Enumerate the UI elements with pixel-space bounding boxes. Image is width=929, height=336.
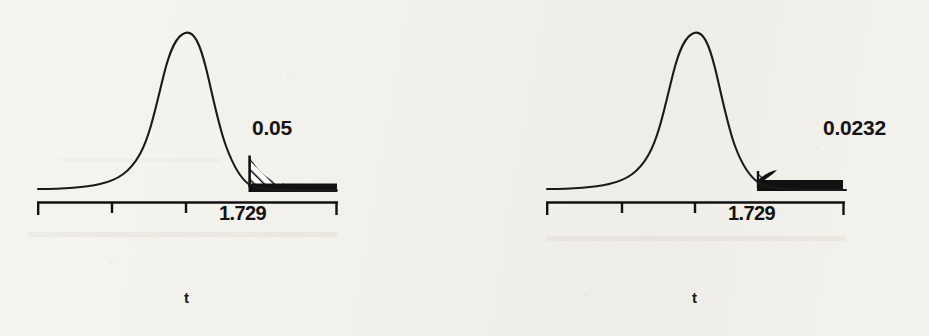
x-axis-ticks-left [38, 202, 336, 215]
figure-canvas: 0.05 1.729 t [0, 0, 929, 336]
left-chart-svg [0, 0, 465, 336]
tail-area-label-right: 0.0232 [823, 117, 886, 138]
density-curve-left [38, 33, 337, 191]
x-axis-ticks-right [547, 202, 843, 215]
x-axis-title-right: t [692, 290, 697, 305]
x-axis-title-left: t [184, 290, 189, 305]
tail-shaded-area-left [250, 156, 337, 188]
critical-value-label-right: 1.729 [728, 203, 775, 223]
critical-value-label-left: 1.729 [219, 203, 266, 223]
chart-panel-left: 0.05 1.729 t [0, 0, 465, 336]
tail-area-label-left: 0.05 [252, 117, 292, 138]
density-curve-right [547, 33, 846, 190]
chart-panel-right: 0.0232 1.729 t [465, 0, 929, 336]
right-chart-svg [465, 0, 929, 336]
